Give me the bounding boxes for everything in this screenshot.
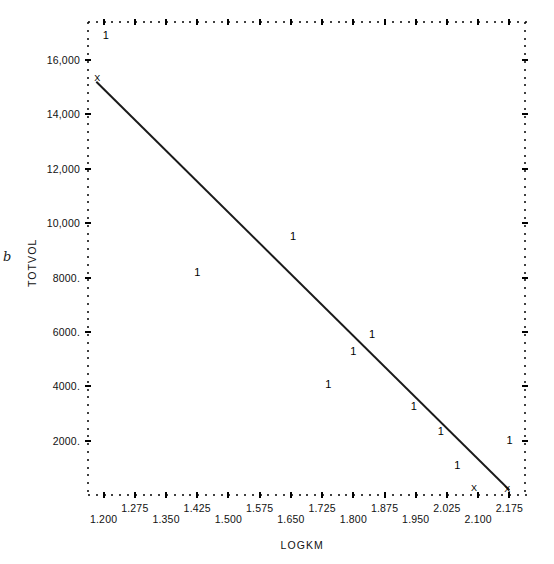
data-point: 1 [194,267,200,278]
frame-dot-right [524,100,526,102]
x-tick-label: 2.175 [491,502,527,514]
frame-dot-top [439,21,441,23]
frame-dot-left [87,155,89,157]
frame-dot-left [87,420,89,422]
frame-dot-bottom [330,494,332,496]
x-tick-bottom [165,492,167,498]
frame-dot-bottom [213,494,215,496]
frame-dot-top [330,21,332,23]
frame-dot-left [87,61,89,63]
frame-dot-left [87,350,89,352]
frame-dot-right [524,428,526,430]
frame-dot-top [377,21,379,23]
frame-dot-left [87,295,89,297]
frame-dot-bottom [174,494,176,496]
frame-dot-bottom [400,494,402,496]
frame-dot-left [87,303,89,305]
frame-dot-bottom [244,494,246,496]
frame-dot-right [524,139,526,141]
frame-dot-top [338,21,340,23]
y-tick-label: 8000. [30,272,80,284]
y-tick-right [522,331,528,333]
frame-dot-right [524,334,526,336]
frame-dot-right [524,311,526,313]
frame-dot-bottom [486,494,488,496]
y-tick-left [85,440,91,442]
frame-dot-right [524,467,526,469]
chart-canvas: b TOTVOL LOGKM 1.2001.2751.3501.4251.500… [0,0,554,564]
frame-dot-bottom [369,494,371,496]
frame-dot-left [87,77,89,79]
frame-dot-top [400,21,402,23]
frame-dot-top [244,21,246,23]
frame-dot-right [524,389,526,391]
data-point: 1 [411,401,417,412]
x-tick-label: 1.500 [210,513,246,525]
frame-dot-left [87,389,89,391]
frame-dot-right [524,233,526,235]
frame-dot-left [87,22,89,24]
frame-dot-left [87,233,89,235]
frame-dot-left [87,256,89,258]
frame-dot-top [252,21,254,23]
frame-dot-left [87,467,89,469]
frame-dot-right [524,350,526,352]
frame-dot-right [524,373,526,375]
x-tick-top [321,19,323,25]
frame-dot-right [524,217,526,219]
frame-dot-left [87,139,89,141]
y-tick-right [522,59,528,61]
data-point: 1 [438,426,444,437]
frame-dot-left [87,178,89,180]
frame-dot-top [283,21,285,23]
y-tick-left [85,331,91,333]
frame-dot-left [87,217,89,219]
frame-dot-left [87,147,89,149]
frame-dot-right [524,178,526,180]
x-tick-label: 2.100 [460,513,496,525]
y-tick-right [522,168,528,170]
y-tick-right [522,440,528,442]
frame-dot-bottom [283,494,285,496]
frame-dot-bottom [205,494,207,496]
frame-dot-left [87,490,89,492]
frame-dot-bottom [127,494,129,496]
frame-dot-left [87,451,89,453]
x-tick-bottom [196,492,198,498]
frame-dot-top [96,21,98,23]
frame-dot-left [87,116,89,118]
frame-dot-right [524,295,526,297]
frame-dot-right [524,490,526,492]
x-tick-top [165,19,167,25]
frame-dot-top [127,21,129,23]
frame-dot-left [87,334,89,336]
frame-dot-right [524,381,526,383]
y-tick-label: 10,000 [30,217,80,229]
x-tick-top [446,19,448,25]
frame-dot-right [524,77,526,79]
x-tick-top [227,19,229,25]
x-tick-top [103,19,105,25]
y-tick-left [85,168,91,170]
frame-dot-right [524,30,526,32]
x-tick-label: 1.650 [273,513,309,525]
frame-dot-left [87,225,89,227]
x-tick-top [384,19,386,25]
y-tick-left [85,277,91,279]
frame-dot-bottom [494,494,496,496]
y-tick-left [85,113,91,115]
x-tick-top [508,19,510,25]
frame-dot-right [524,38,526,40]
frame-dot-right [524,256,526,258]
x-tick-bottom [259,492,261,498]
x-tick-top [290,19,292,25]
frame-dot-top [182,21,184,23]
frame-dot-right [524,186,526,188]
frame-dot-right [524,108,526,110]
y-tick-label: 16,000 [30,54,80,66]
frame-dot-right [524,451,526,453]
frame-dot-bottom [143,494,145,496]
frame-dot-top [494,21,496,23]
frame-dot-left [87,428,89,430]
y-tick-left [85,222,91,224]
